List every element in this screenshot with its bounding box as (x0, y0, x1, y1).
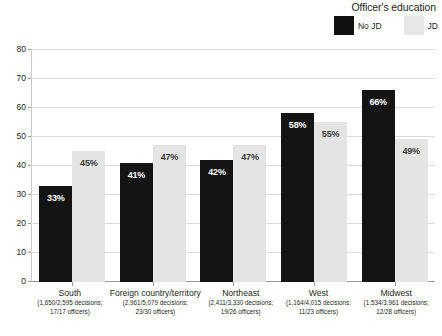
category-label-south: South (1,650/2,595 decisions; 17/17 offi… (31, 288, 109, 334)
x-tick-west (314, 282, 315, 286)
y-tick-label-50: 50 (17, 131, 26, 141)
category-sub1-foreign-country: (2,961/5,079 decisions; (110, 299, 201, 307)
y-tick-mark-60 (28, 107, 31, 108)
category-name-midwest: Midwest (358, 288, 434, 298)
category-sub2-south: 17/17 officers) (32, 308, 108, 316)
legend-swatch-jd-icon (404, 16, 424, 35)
bar-group-midwest: 66% 49% (354, 49, 435, 282)
plot-area: 0 10 20 30 40 50 60 70 (31, 49, 435, 282)
category-name-foreign-country: Foreign country/territory (110, 288, 201, 298)
legend-label-jd: JD (428, 21, 438, 31)
x-tick-midwest (395, 282, 396, 286)
bar-label-northeast-no-jd: 42% (200, 167, 233, 177)
category-sub1-midwest: (1,534/3,961 decisions; (358, 299, 434, 307)
legend-label-no-jd: No JD (358, 21, 382, 31)
bar-label-south-no-jd: 33% (39, 193, 72, 203)
bar-label-midwest-no-jd: 66% (362, 97, 395, 107)
bar-foreign-no-jd[interactable]: 41% (120, 163, 153, 282)
y-tick-label-60: 60 (17, 102, 26, 112)
category-label-west: West (1,164/4,015 decisions; 11/23 offic… (280, 288, 358, 334)
category-name-south: South (32, 288, 108, 298)
bar-midwest-jd[interactable]: 49% (395, 139, 428, 282)
y-tick-label-70: 70 (17, 73, 26, 83)
bar-label-south-jd: 45% (72, 158, 105, 168)
category-sub2-midwest: 12/28 officers) (358, 308, 434, 316)
category-sub1-west: (1,164/4,015 decisions; (281, 299, 357, 307)
legend-swatch-no-jd-icon (334, 16, 354, 35)
y-tick-mark-30 (28, 194, 31, 195)
y-tick-label-30: 30 (17, 189, 26, 199)
bar-label-midwest-jd: 49% (395, 146, 428, 156)
y-tick-mark-40 (28, 165, 31, 166)
bar-group-south: 33% 45% (32, 49, 113, 282)
bar-label-foreign-jd: 47% (153, 152, 186, 162)
bar-northeast-no-jd[interactable]: 42% (200, 160, 233, 282)
legend-entry-no-jd[interactable]: No JD (334, 16, 382, 35)
grouped-bar-chart: Officer's education No JD JD 0 10 20 (0, 0, 442, 336)
bar-group-west: 58% 55% (274, 49, 355, 282)
category-label-northeast: Northeast (2,411/3,330 decisions; 19/26 … (202, 288, 280, 334)
y-tick-mark-80 (28, 49, 31, 50)
category-sub2-west: 11/23 officers) (281, 308, 357, 316)
x-tick-northeast (233, 282, 234, 286)
category-sub1-northeast: (2,411/3,330 decisions; (203, 299, 279, 307)
legend-items: No JD JD (334, 16, 438, 35)
bar-south-no-jd[interactable]: 33% (39, 186, 72, 282)
y-tick-label-0: 0 (21, 276, 26, 286)
bar-foreign-jd[interactable]: 47% (153, 145, 186, 282)
category-sub2-foreign-country: 23/30 officers) (110, 308, 201, 316)
y-tick-label-10: 10 (17, 247, 26, 257)
bar-west-jd[interactable]: 55% (314, 122, 347, 282)
bar-label-foreign-no-jd: 41% (120, 170, 153, 180)
bar-groups: 33% 45% 41% 47% 42% (32, 49, 435, 282)
bar-label-west-jd: 55% (314, 129, 347, 139)
legend-title: Officer's education (351, 1, 436, 13)
chart-legend: Officer's education No JD JD (248, 1, 438, 41)
category-name-northeast: Northeast (203, 288, 279, 298)
bar-group-foreign-country: 41% 47% (113, 49, 194, 282)
y-tick-label-40: 40 (17, 160, 26, 170)
bar-midwest-no-jd[interactable]: 66% (362, 90, 395, 282)
bar-label-northeast-jd: 47% (233, 152, 266, 162)
y-tick-mark-10 (28, 252, 31, 253)
category-sub2-northeast: 19/26 officers) (203, 308, 279, 316)
category-label-midwest: Midwest (1,534/3,961 decisions; 12/28 of… (357, 288, 435, 334)
category-label-foreign-country: Foreign country/territory (2,961/5,079 d… (109, 288, 202, 334)
legend-entry-jd[interactable]: JD (404, 16, 438, 35)
x-tick-south (72, 282, 73, 286)
category-name-west: West (281, 288, 357, 298)
bar-group-northeast: 42% 47% (193, 49, 274, 282)
y-tick-mark-70 (28, 78, 31, 79)
bar-label-west-no-jd: 58% (281, 120, 314, 130)
bar-west-no-jd[interactable]: 58% (281, 113, 314, 282)
y-tick-label-80: 80 (17, 44, 26, 54)
y-tick-label-20: 20 (17, 218, 26, 228)
x-axis-category-labels: South (1,650/2,595 decisions; 17/17 offi… (31, 288, 435, 334)
x-tick-foreign-country (153, 282, 154, 286)
category-sub1-south: (1,650/2,595 decisions; (32, 299, 108, 307)
bar-south-jd[interactable]: 45% (72, 151, 105, 282)
y-tick-mark-20 (28, 223, 31, 224)
y-tick-mark-50 (28, 136, 31, 137)
bar-northeast-jd[interactable]: 47% (233, 145, 266, 282)
